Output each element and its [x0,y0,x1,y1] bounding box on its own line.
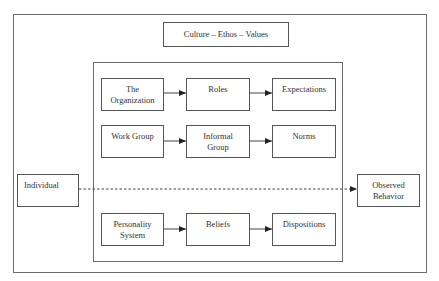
node-label: Observed [358,180,419,191]
node-dispositions: Dispositions [272,213,336,246]
node-label: Beliefs [187,219,249,230]
node-label: Informal [187,131,249,142]
node-label: Expectations [273,84,335,95]
node-label: Work Group [102,131,163,142]
node-individual: Individual [17,174,79,207]
node-label: The [102,84,163,95]
node-work-group: Work Group [101,125,164,158]
culture-ethos-values-label: Culture – Ethos – Values [184,29,268,40]
node-label: Behavior [358,191,419,202]
node-label: Norms [273,131,335,142]
node-label: Group [187,142,249,153]
node-expectations: Expectations [272,78,336,111]
node-personality-system: Personality System [101,213,164,246]
node-label: Roles [187,84,249,95]
node-label: Dispositions [273,219,335,230]
node-label: Individual [24,180,78,191]
node-the-organization: The Organization [101,78,164,111]
node-norms: Norms [272,125,336,158]
node-roles: Roles [186,78,250,111]
node-informal-group: Informal Group [186,125,250,158]
node-label: Personality [102,219,163,230]
node-beliefs: Beliefs [186,213,250,246]
node-label: System [102,230,163,241]
node-label: Organization [102,95,163,106]
node-observed-behavior: Observed Behavior [357,174,420,207]
culture-ethos-values-box: Culture – Ethos – Values [163,22,289,47]
